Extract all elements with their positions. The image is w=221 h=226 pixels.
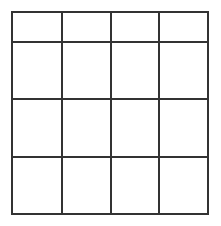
table-row — [13, 99, 208, 156]
grid-cell[interactable] — [111, 157, 160, 214]
grid-cell[interactable] — [111, 99, 160, 156]
grid-cell[interactable] — [13, 13, 62, 42]
table-row — [13, 13, 208, 42]
grid-cell[interactable] — [62, 157, 111, 214]
grid-cell[interactable] — [159, 42, 208, 99]
grid-cell[interactable] — [62, 13, 111, 42]
grid-cell[interactable] — [13, 157, 62, 214]
grid-table — [13, 13, 209, 215]
grid-cell[interactable] — [111, 13, 160, 42]
grid-body — [13, 13, 208, 214]
grid-cell[interactable] — [62, 42, 111, 99]
table-row — [13, 42, 208, 99]
grid-cell[interactable] — [159, 13, 208, 42]
grid-cell[interactable] — [13, 99, 62, 156]
grid-cell[interactable] — [159, 99, 208, 156]
grid-cell[interactable] — [62, 99, 111, 156]
grid-cell[interactable] — [111, 42, 160, 99]
grid-cell[interactable] — [159, 157, 208, 214]
grid-diagram — [11, 11, 209, 215]
grid-cell[interactable] — [13, 42, 62, 99]
table-row — [13, 157, 208, 214]
